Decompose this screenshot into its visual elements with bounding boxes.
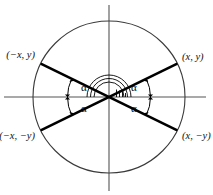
figure-canvas: α α α α (−x, y) (x, y) (−x, −y) (x, −y)	[0, 0, 213, 195]
coordinate-label-quadrant-4: (x, −y)	[182, 130, 211, 142]
angle-arc-q3-group	[65, 97, 75, 115]
coordinate-label-quadrant-3: (−x, −y)	[0, 130, 35, 142]
angle-arc-q1-group	[143, 79, 153, 97]
angle-label-q1: α	[131, 81, 137, 93]
angle-label-q3: α	[81, 102, 87, 114]
angle-arc-q4-group	[143, 97, 153, 115]
angle-arc-q3	[68, 97, 72, 115]
angle-arc-q1	[146, 79, 150, 97]
coordinate-label-quadrant-2: (−x, y)	[6, 49, 35, 61]
angle-label-q2: α	[81, 81, 87, 93]
coordinate-label-quadrant-1: (x, y)	[182, 51, 204, 63]
angle-label-q4: α	[131, 102, 137, 114]
angle-arc-q2-group	[65, 79, 75, 97]
angle-arc-q2	[68, 79, 72, 97]
unit-circle-figure: α α α α (−x, y) (x, y) (−x, −y) (x, −y)	[0, 0, 213, 195]
angle-arc-q4	[146, 97, 150, 115]
